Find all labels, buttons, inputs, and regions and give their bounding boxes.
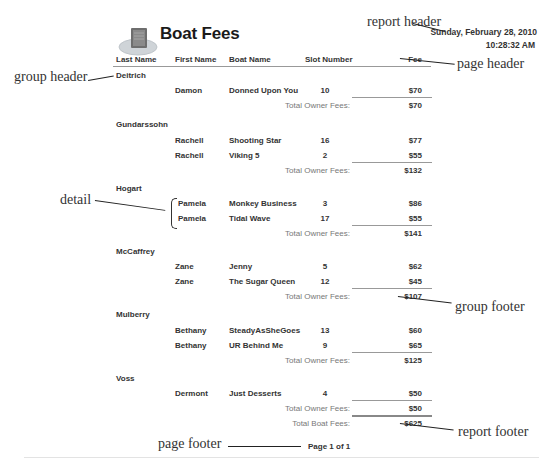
page-number: Page 1 of 1 <box>308 442 350 451</box>
report-date: Sunday, February 28, 2010 <box>430 27 537 37</box>
detail-slot: 2 <box>310 151 340 160</box>
detail-slot: 16 <box>310 136 340 145</box>
group-header: Hogart <box>116 184 142 193</box>
report-title: Boat Fees <box>160 24 239 44</box>
group-total-rule <box>352 400 432 401</box>
group-total-value: $141 <box>380 229 422 238</box>
detail-first-name: Damon <box>175 86 202 95</box>
detail-first-name: Rachell <box>175 136 203 145</box>
detail-slot: 13 <box>310 326 340 335</box>
detail-first-name: Zane <box>175 277 194 286</box>
column-header-slot-number: Slot Number <box>305 55 353 64</box>
detail-boat-name: UR Behind Me <box>229 341 283 350</box>
detail-slot: 9 <box>310 341 340 350</box>
detail-first-name: Bethany <box>175 326 207 335</box>
group-total-value: $125 <box>380 356 422 365</box>
detail-slot: 12 <box>310 277 340 286</box>
group-total-label: Total Owner Fees: <box>280 101 350 110</box>
group-header: Mulberry <box>116 310 150 319</box>
detail-fee: $70 <box>380 86 422 95</box>
detail-fee: $55 <box>380 214 422 223</box>
group-total-label: Total Owner Fees: <box>280 229 350 238</box>
detail-fee: $45 <box>380 277 422 286</box>
column-header-last-name: Last Name <box>116 55 156 64</box>
group-total-label: Total Owner Fees: <box>280 356 350 365</box>
detail-boat-name: Just Desserts <box>229 389 281 398</box>
detail-bracket <box>171 198 177 229</box>
report-page: Boat Fees Sunday, February 28, 2010 10:2… <box>0 0 549 471</box>
detail-slot: 17 <box>310 214 340 223</box>
annotation-page-header: page header <box>457 56 524 72</box>
header-divider <box>113 66 431 67</box>
detail-slot: 3 <box>310 199 340 208</box>
detail-slot: 5 <box>310 262 340 271</box>
group-header: Voss <box>116 374 135 383</box>
report-time: 10:28:32 AM <box>486 40 535 50</box>
annotation-line-detail <box>95 200 165 211</box>
annotation-line-page-footer <box>228 446 301 447</box>
grand-total-rule <box>352 415 432 417</box>
group-total-rule <box>352 162 432 163</box>
annotation-group-header: group header <box>14 69 87 85</box>
detail-boat-name: Viking 5 <box>229 151 260 160</box>
detail-slot: 4 <box>310 389 340 398</box>
detail-slot: 10 <box>310 86 340 95</box>
group-total-rule <box>352 288 432 289</box>
column-header-boat-name: Boat Name <box>229 55 271 64</box>
annotation-line-group-header <box>88 75 114 80</box>
detail-fee: $60 <box>380 326 422 335</box>
group-total-label: Total Owner Fees: <box>280 292 350 301</box>
annotation-detail: detail <box>60 192 91 208</box>
group-header: Deitrich <box>116 71 146 80</box>
detail-boat-name: SteadyAsSheGoes <box>229 326 300 335</box>
group-header: Gundarssohn <box>116 120 168 129</box>
group-total-value: $70 <box>380 101 422 110</box>
page-bottom-divider <box>24 457 539 458</box>
group-total-label: Total Owner Fees: <box>280 404 350 413</box>
group-total-rule <box>352 225 432 226</box>
detail-fee: $62 <box>380 262 422 271</box>
detail-boat-name: Jenny <box>229 262 252 271</box>
annotation-report-footer: report footer <box>458 424 528 440</box>
group-total-rule <box>352 352 432 353</box>
detail-first-name: Bethany <box>175 341 207 350</box>
detail-boat-name: Donned Upon You <box>229 86 298 95</box>
detail-fee: $65 <box>380 341 422 350</box>
detail-first-name: Pamela <box>178 214 206 223</box>
group-total-rule <box>352 97 432 98</box>
detail-first-name: Dermont <box>175 389 208 398</box>
detail-fee: $77 <box>380 136 422 145</box>
group-total-value: $50 <box>380 404 422 413</box>
detail-fee: $50 <box>380 389 422 398</box>
detail-fee: $86 <box>380 199 422 208</box>
detail-first-name: Pamela <box>178 199 206 208</box>
detail-first-name: Rachell <box>175 151 203 160</box>
detail-boat-name: Monkey Business <box>229 199 297 208</box>
grand-total-label: Total Boat Fees: <box>280 419 350 428</box>
annotation-page-footer: page footer <box>158 436 221 452</box>
detail-first-name: Zane <box>175 262 194 271</box>
detail-boat-name: Shooting Star <box>229 136 281 145</box>
detail-fee: $55 <box>380 151 422 160</box>
detail-boat-name: The Sugar Queen <box>229 277 295 286</box>
report-book-icon <box>118 26 162 56</box>
column-header-first-name: First Name <box>175 55 216 64</box>
group-header: McCaffrey <box>116 247 155 256</box>
group-total-label: Total Owner Fees: <box>280 166 350 175</box>
detail-boat-name: Tidal Wave <box>229 214 270 223</box>
group-total-value: $132 <box>380 166 422 175</box>
annotation-group-footer: group footer <box>455 299 525 315</box>
